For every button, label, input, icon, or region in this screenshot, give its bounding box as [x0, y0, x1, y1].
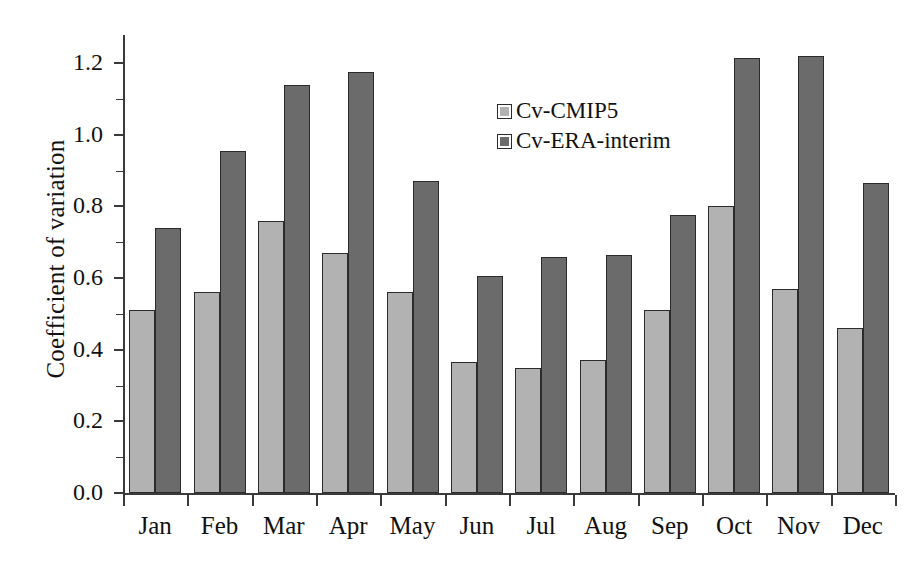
y-tick-minor — [116, 171, 124, 172]
chart-figure: Coefficient of variation 0.00.20.40.60.8… — [0, 0, 916, 563]
bar-apr-era-interim — [348, 72, 374, 493]
x-axis-label-dec: Dec — [818, 512, 908, 540]
y-tick-label: 0.4 — [73, 336, 103, 363]
bar-dec-cmip5 — [837, 328, 863, 493]
y-tick-minor — [116, 457, 124, 458]
y-tick-0.6: 0.6 — [114, 277, 124, 279]
legend-entry-cmip5: Cv-CMIP5 — [497, 96, 671, 126]
y-tick-0.0: 0.0 — [114, 492, 124, 494]
bar-nov-era-interim — [798, 56, 824, 493]
bar-group-may — [387, 35, 439, 493]
bar-oct-cmip5 — [708, 206, 734, 493]
x-tick — [316, 495, 318, 506]
bar-jul-era-interim — [541, 257, 567, 494]
bar-may-cmip5 — [387, 292, 413, 493]
bar-group-oct — [708, 35, 760, 493]
x-tick — [895, 495, 897, 506]
y-tick-0.8: 0.8 — [114, 205, 124, 207]
y-tick-label: 1.0 — [73, 121, 103, 148]
legend-entry-era-interim: Cv-ERA-interim — [497, 126, 671, 156]
x-tick — [445, 495, 447, 506]
bar-apr-cmip5 — [322, 253, 348, 493]
y-tick-minor — [116, 242, 124, 243]
legend-label: Cv-CMIP5 — [516, 98, 618, 124]
y-tick-label: 0.8 — [73, 192, 103, 219]
y-tick-minor — [116, 314, 124, 315]
bar-aug-cmip5 — [580, 360, 606, 493]
bar-group-jun — [451, 35, 503, 493]
y-tick-1.0: 1.0 — [114, 134, 124, 136]
bar-aug-era-interim — [606, 255, 632, 493]
bar-sep-era-interim — [670, 215, 696, 493]
x-tick — [252, 495, 254, 506]
y-tick-label: 0.2 — [73, 407, 103, 434]
bar-jan-era-interim — [155, 228, 181, 493]
bar-dec-era-interim — [863, 183, 889, 493]
bar-sep-cmip5 — [644, 310, 670, 493]
bar-mar-cmip5 — [258, 221, 284, 493]
x-tick — [702, 495, 704, 506]
legend-swatch-inner — [498, 135, 511, 148]
y-tick-0.4: 0.4 — [114, 349, 124, 351]
x-tick — [573, 495, 575, 506]
legend-swatch-icon — [497, 134, 512, 149]
x-tick — [766, 495, 768, 506]
y-tick-minor — [116, 99, 124, 100]
legend-swatch-inner — [498, 105, 511, 118]
bar-mar-era-interim — [284, 85, 310, 494]
bar-feb-era-interim — [220, 151, 246, 493]
chart-legend: Cv-CMIP5Cv-ERA-interim — [497, 96, 671, 156]
bar-jan-cmip5 — [129, 310, 155, 493]
bar-group-nov — [772, 35, 824, 493]
x-tick — [123, 495, 125, 506]
y-tick-label: 0.6 — [73, 264, 103, 291]
bar-nov-cmip5 — [772, 289, 798, 493]
y-tick-label: 1.2 — [73, 49, 103, 76]
y-tick-0.2: 0.2 — [114, 420, 124, 422]
y-tick-minor — [116, 386, 124, 387]
x-tick — [509, 495, 511, 506]
legend-label: Cv-ERA-interim — [516, 128, 671, 154]
y-tick-1.2: 1.2 — [114, 62, 124, 64]
bar-feb-cmip5 — [194, 292, 220, 493]
legend-swatch-icon — [497, 104, 512, 119]
y-tick-label: 0.0 — [73, 479, 103, 506]
x-tick — [638, 495, 640, 506]
x-tick — [831, 495, 833, 506]
x-tick — [380, 495, 382, 506]
bar-group-dec — [837, 35, 889, 493]
bar-group-apr — [322, 35, 374, 493]
bar-group-jan — [129, 35, 181, 493]
bar-group-mar — [258, 35, 310, 493]
y-axis-title: Coefficient of variation — [42, 49, 70, 469]
bar-may-era-interim — [413, 181, 439, 493]
x-tick — [187, 495, 189, 506]
bar-jun-era-interim — [477, 276, 503, 493]
y-axis-line — [123, 35, 125, 495]
bar-group-feb — [194, 35, 246, 493]
bar-oct-era-interim — [734, 58, 760, 493]
bar-jun-cmip5 — [451, 362, 477, 493]
bar-jul-cmip5 — [515, 368, 541, 493]
